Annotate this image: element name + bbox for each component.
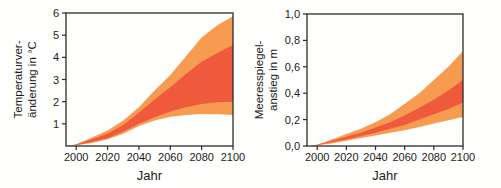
y-tick-label: 0,6 <box>285 61 300 73</box>
x-tick-label: 2020 <box>95 151 119 163</box>
y-tick-label: 0,4 <box>285 87 300 99</box>
x-tick-label: 2060 <box>392 151 416 163</box>
y-tick-label: 6 <box>53 7 59 19</box>
x-tick-label: 2000 <box>64 151 88 163</box>
x-tick-label: 2080 <box>422 151 446 163</box>
climate-projection-charts: 200020202040206020802100123456JahrTemper… <box>0 0 501 188</box>
y-tick-label: 0,0 <box>285 140 300 152</box>
y-tick-label: 1 <box>53 118 59 130</box>
x-tick-label: 2060 <box>158 151 182 163</box>
y-tick-label: 4 <box>53 51 59 63</box>
temperature-chart: 200020202040206020802100123456JahrTemper… <box>12 7 245 183</box>
x-tick-label: 2020 <box>334 151 358 163</box>
y-tick-label: 2 <box>53 96 59 108</box>
y-axis-title-line: Meeresspiegel- <box>253 41 265 120</box>
y-tick-label: 5 <box>53 29 59 41</box>
y-tick-label: 3 <box>53 74 59 86</box>
y-tick-label: 1,0 <box>285 8 300 20</box>
y-tick-label: 0,8 <box>285 34 300 46</box>
climate-projection-figure: 200020202040206020802100123456JahrTemper… <box>0 0 501 188</box>
y-axis-title-line: änderung in °C <box>26 41 38 118</box>
x-tick-label: 2080 <box>189 151 213 163</box>
x-tick-label: 2040 <box>363 151 387 163</box>
x-axis-title: Jahr <box>137 168 163 183</box>
y-axis-title-line: anstieg in m <box>267 49 279 111</box>
x-tick-label: 2000 <box>305 151 329 163</box>
sea-level-chart: 2000202020402060208021000,00,20,40,60,81… <box>253 8 475 183</box>
x-tick-label: 2100 <box>451 151 475 163</box>
x-tick-label: 2040 <box>127 151 151 163</box>
y-axis-title-line: Temperaturver- <box>12 40 24 118</box>
x-axis-title: Jahr <box>372 168 398 183</box>
x-tick-label: 2100 <box>221 151 245 163</box>
y-tick-label: 0,2 <box>285 114 300 126</box>
